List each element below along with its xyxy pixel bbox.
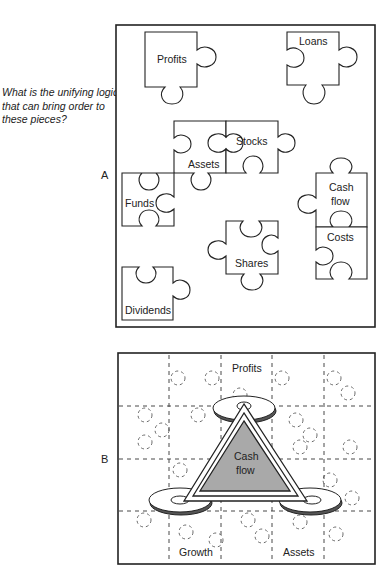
piece-label-loans: Loans: [299, 35, 328, 47]
corner-label-growth: Growth: [179, 546, 213, 558]
corner-label-profits: Profits: [232, 362, 262, 374]
piece-label-funds: Funds: [125, 197, 154, 209]
piece-label-dividends: Dividends: [125, 304, 171, 316]
piece-label-cash-flow-1: Cash: [329, 181, 354, 193]
piece-label-costs: Costs: [327, 231, 354, 243]
piece-label-cash-flow-2: flow: [331, 195, 350, 207]
diagram-canvas: Profits Loans Assets Stocks Funds Cash f…: [0, 0, 392, 571]
piece-label-stocks: Stocks: [236, 135, 268, 147]
corner-label-assets: Assets: [283, 546, 315, 558]
triangle-label-1: Cash: [234, 450, 259, 462]
piece-label-shares: Shares: [235, 257, 268, 269]
triangle-label-2: flow: [236, 464, 255, 476]
piece-label-assets: Assets: [188, 158, 220, 170]
piece-label-profits: Profits: [157, 53, 187, 65]
